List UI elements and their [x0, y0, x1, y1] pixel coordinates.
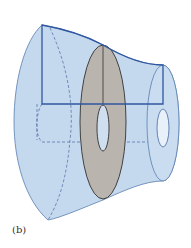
figure-label: (b): [12, 224, 26, 235]
right-end-hole: [157, 109, 169, 147]
solid-of-revolution-diagram: [0, 0, 191, 248]
washer-hole: [97, 105, 109, 151]
